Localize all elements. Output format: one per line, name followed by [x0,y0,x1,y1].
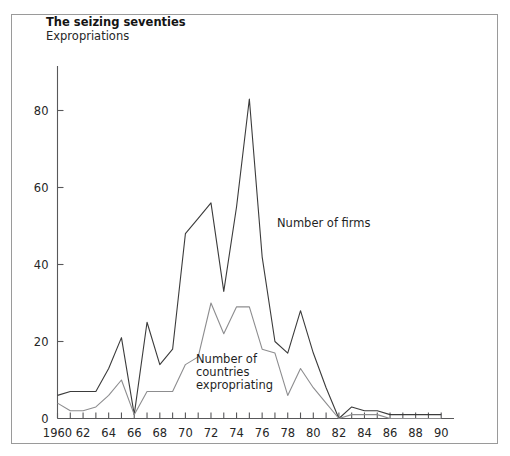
annotation-countries-line1: Number of [196,352,258,366]
annotation-countries-line3: expropriating [196,378,273,392]
x-axis-tick-label: 90 [434,426,449,440]
x-axis-tick-label: 78 [280,426,295,440]
x-axis-tick-label: 84 [357,426,372,440]
y-axis-tick-label: 80 [34,104,49,118]
x-axis-tick-label: 82 [332,426,347,440]
x-axis-tick-label: 66 [127,426,142,440]
expropriations-line-chart: 020406080 196062646668707274767880828486… [0,0,510,456]
annotation-number-of-firms: Number of firms [277,216,371,230]
x-axis-tick-label: 1960 [43,426,72,440]
x-axis-tick-label: 68 [153,426,168,440]
y-axis-tick-label: 20 [34,335,49,349]
x-axis-tick-label: 86 [383,426,398,440]
y-axis: 020406080 [34,66,64,426]
x-axis-tick-label: 72 [204,426,219,440]
x-axis-tick-label: 62 [76,426,91,440]
annotation-countries-line2: countries [196,365,249,379]
x-axis-tick-label: 88 [408,426,423,440]
x-axis-tick-label: 70 [178,426,193,440]
x-axis-tick-label: 64 [101,426,116,440]
y-axis-tick-label: 40 [34,258,49,272]
y-axis-tick-label: 60 [34,181,49,195]
x-axis-tick-label: 76 [255,426,270,440]
x-axis: 1960626466687072747678808284868890 [43,413,454,440]
x-axis-tick-label: 74 [229,426,244,440]
y-axis-tick-label: 0 [41,412,48,426]
x-axis-tick-label: 80 [306,426,321,440]
